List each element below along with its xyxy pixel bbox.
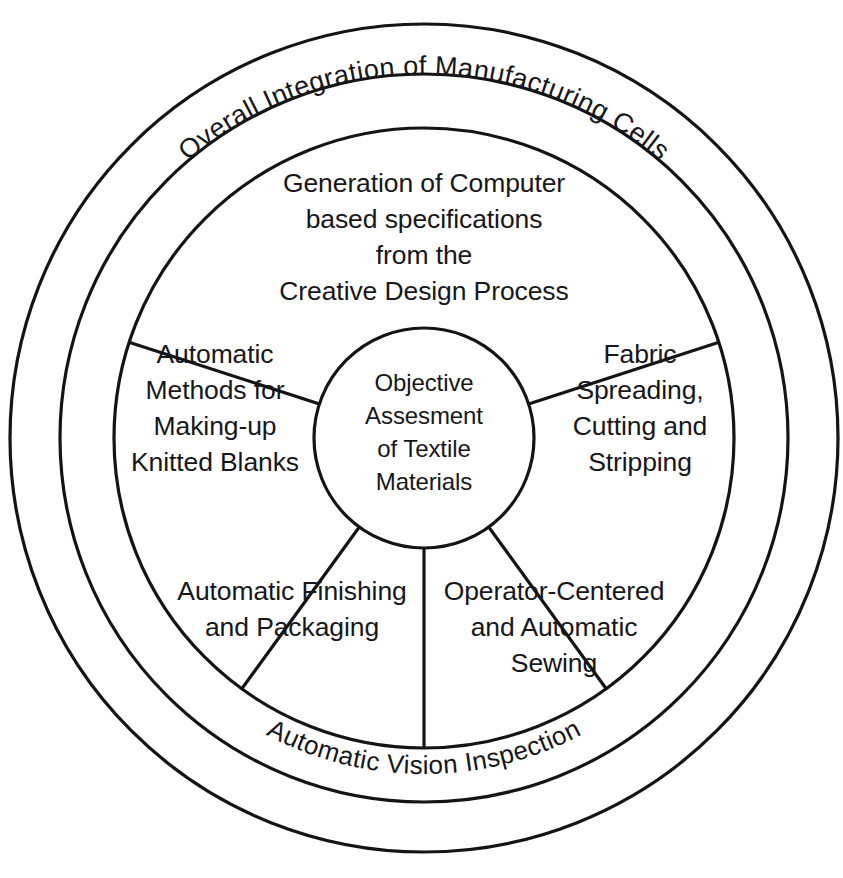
sector-left-line-4: Knitted Blanks (131, 447, 299, 477)
sector-top-line-3: from the (376, 240, 472, 270)
sector-top-line-4: Creative Design Process (279, 276, 568, 306)
wheel-diagram: Overall Integration of Manufacturing Cel… (0, 0, 843, 878)
sector-bottom-right-line-3: Sewing (511, 648, 597, 678)
sector-top-line-1: Generation of Computer (283, 168, 565, 198)
hub-line-2: Assesment (365, 402, 483, 429)
sector-right-line-3: Cutting and (573, 411, 707, 441)
outer-ring-label: Overall Integration of Manufacturing Cel… (173, 51, 676, 166)
sector-automatic-methods-for-making-up-knitted-blanks: Automatic Methods for Making-up Knitted … (131, 339, 299, 477)
sector-fabric-spreading-cutting-stripping: Fabric Spreading, Cutting and Stripping (573, 339, 707, 477)
outer-ring-label-text: Overall Integration of Manufacturing Cel… (173, 51, 676, 166)
sector-generation-of-computer-based-specifications: Generation of Computer based specificati… (279, 168, 568, 306)
hub-line-1: Objective (374, 369, 473, 396)
wheel-svg: Overall Integration of Manufacturing Cel… (0, 0, 843, 878)
spoke-lower-left (242, 527, 359, 689)
sector-bottom-right-line-2: and Automatic (471, 612, 638, 642)
sector-right-line-4: Stripping (588, 447, 692, 477)
sector-bottom-right-line-1: Operator-Centered (444, 576, 665, 606)
sector-bottom-left-line-2: and Packaging (205, 612, 379, 642)
sector-automatic-finishing-and-packaging: Automatic Finishing and Packaging (177, 576, 406, 642)
hub-line-3: of Textile (377, 435, 470, 462)
sector-left-line-2: Methods for (146, 375, 285, 405)
sector-operator-centered-and-automatic-sewing: Operator-Centered and Automatic Sewing (444, 576, 665, 678)
sector-right-line-1: Fabric (603, 339, 676, 369)
sector-right-line-2: Spreading, (576, 375, 703, 405)
sector-left-line-1: Automatic (157, 339, 274, 369)
hub-line-4: Materials (376, 468, 473, 495)
sector-left-line-3: Making-up (154, 411, 277, 441)
sector-bottom-left-line-1: Automatic Finishing (177, 576, 406, 606)
sector-top-line-2: based specifications (306, 204, 543, 234)
